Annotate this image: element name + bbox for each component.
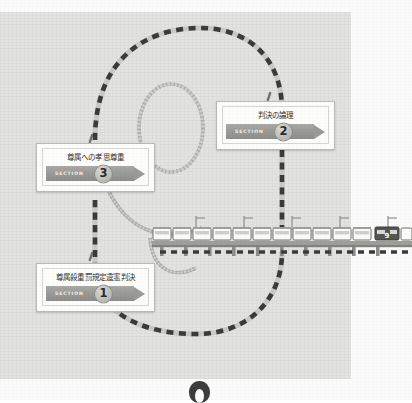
bottom-cropped-glyph — [189, 381, 210, 403]
callout-title-section-1: 尊属殺重罰規定違憲判決 — [46, 272, 145, 283]
section-number-1: 1 — [94, 284, 113, 303]
section-number-2: 2 — [274, 122, 293, 141]
train: 9 — [153, 227, 412, 240]
svg-text:9: 9 — [385, 232, 390, 240]
train-rear-car: 9 — [375, 227, 399, 240]
section-number-3: 3 — [94, 164, 113, 183]
train-cars — [153, 227, 371, 240]
banner-arrow-tip-2 — [314, 125, 325, 139]
callout-section-2[interactable]: 判決の論理 SECTION 2 — [216, 101, 335, 150]
callout-title-section-2: 判決の論理 — [226, 110, 325, 121]
banner-arrow-tip-1 — [134, 287, 145, 301]
section-label-1: SECTION — [55, 291, 84, 296]
banner-section-3: SECTION 3 — [46, 166, 145, 181]
banner-arrow-tip-3 — [134, 167, 145, 181]
callout-section-3[interactable]: 尊属への孝思尊重 SECTION 3 — [36, 143, 155, 192]
section-label-3: SECTION — [55, 171, 84, 176]
viaduct — [152, 241, 412, 256]
banner-section-2: SECTION 2 — [226, 124, 325, 139]
callout-section-1[interactable]: 尊属殺重罰規定違憲判決 SECTION 1 — [36, 263, 155, 312]
section-label-2: SECTION — [235, 129, 264, 134]
callout-title-section-3: 尊属への孝思尊重 — [46, 152, 145, 163]
banner-section-1: SECTION 1 — [46, 286, 145, 301]
